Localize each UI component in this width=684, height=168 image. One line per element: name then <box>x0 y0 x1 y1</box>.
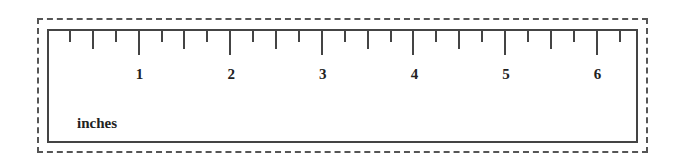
tick-mark <box>550 31 552 49</box>
tick-mark <box>390 31 392 42</box>
tick-mark <box>573 31 575 42</box>
tick-mark <box>458 31 460 49</box>
tick-mark <box>206 31 208 42</box>
inch-number: 4 <box>399 66 429 83</box>
tick-mark <box>527 31 529 42</box>
tick-mark <box>229 31 231 55</box>
inch-number: 3 <box>308 66 338 83</box>
inch-number: 1 <box>125 66 155 83</box>
inch-number: 6 <box>583 66 613 83</box>
tick-mark <box>183 31 185 49</box>
tick-mark <box>115 31 117 42</box>
tick-mark <box>504 31 506 55</box>
tick-mark <box>161 31 163 42</box>
inch-number: 5 <box>491 66 521 83</box>
tick-mark <box>367 31 369 49</box>
tick-mark <box>138 31 140 55</box>
tick-mark <box>321 31 323 55</box>
tick-mark <box>92 31 94 49</box>
tick-mark <box>252 31 254 42</box>
tick-mark <box>344 31 346 42</box>
tick-mark <box>435 31 437 42</box>
tick-mark <box>596 31 598 55</box>
tick-mark <box>481 31 483 42</box>
ruler: inches 123456 <box>47 29 638 143</box>
tick-mark <box>275 31 277 49</box>
unit-label: inches <box>77 115 117 132</box>
tick-mark <box>298 31 300 42</box>
tick-mark <box>619 31 621 42</box>
tick-mark <box>69 31 71 42</box>
inch-number: 2 <box>216 66 246 83</box>
tick-mark <box>412 31 414 55</box>
